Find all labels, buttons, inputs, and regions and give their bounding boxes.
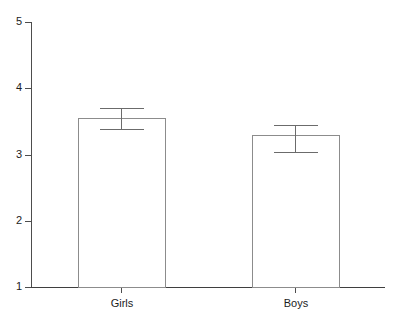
y-axis-tick-2 [25,221,31,222]
y-axis-line [31,22,32,288]
x-axis-label-boys: Boys [255,297,337,310]
error-bar-cap-lower-boys [274,152,318,153]
y-axis-label-3-wrap: 3 [0,149,22,160]
error-bar-stem-boys [295,125,296,153]
y-axis-label-5-wrap: 5 [0,16,22,27]
error-bar-cap-upper-boys [274,125,318,126]
bar-chart: 5 4 3 2 1 Girls Boys [0,0,404,325]
y-axis-tick-3 [25,155,31,156]
y-axis-label-4: 4 [2,82,22,93]
x-axis-tick-girls [121,288,122,293]
bar-boys[interactable] [252,135,340,288]
y-axis-tick-1 [25,287,31,288]
y-axis-label-5: 5 [2,16,22,27]
y-axis-tick-5 [25,22,31,23]
y-axis-label-1: 1 [2,281,22,292]
x-axis-tick-boys [295,288,296,293]
y-axis-label-2: 2 [2,215,22,226]
y-axis-tick-4 [25,88,31,89]
error-bar-cap-lower-girls [100,129,144,130]
y-axis-label-3: 3 [2,149,22,160]
error-bar-stem-girls [121,108,122,129]
error-bar-cap-upper-girls [100,108,144,109]
bar-girls[interactable] [78,118,166,288]
x-axis-label-girls: Girls [81,297,163,310]
y-axis-label-1-wrap: 1 [0,281,22,292]
y-axis-label-2-wrap: 2 [0,215,22,226]
y-axis-label-4-wrap: 4 [0,82,22,93]
